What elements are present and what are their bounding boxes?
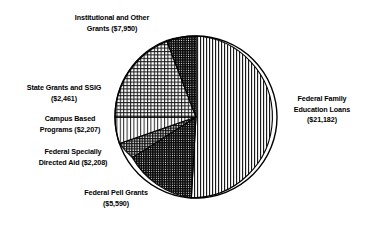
slice-label-institutional-and-other-grants: Institutional and Other Grants ($7,950) xyxy=(46,13,178,34)
slice-label-federal-pell-grants: Federal Pell Grants ($5,590) xyxy=(58,188,174,209)
pie-slices xyxy=(115,36,277,198)
slice-federal-family-education-loans xyxy=(191,36,272,198)
pie-chart-graphic xyxy=(113,34,279,200)
slice-label-federal-family-education-loans: Federal Family Education Loans ($21,182) xyxy=(282,94,362,126)
slice-label-federal-specially-directed-aid: Federal Specially Directed Aid ($2,208) xyxy=(17,147,129,168)
slice-label-state-grants-and-ssig: State Grants and SSIG ($2,461) xyxy=(6,83,122,104)
pie-svg xyxy=(113,34,279,200)
pie-chart-figure: Institutional and Other Grants ($7,950) … xyxy=(0,0,366,228)
slice-label-campus-based-programs: Campus Based Programs ($2,207) xyxy=(14,114,126,135)
